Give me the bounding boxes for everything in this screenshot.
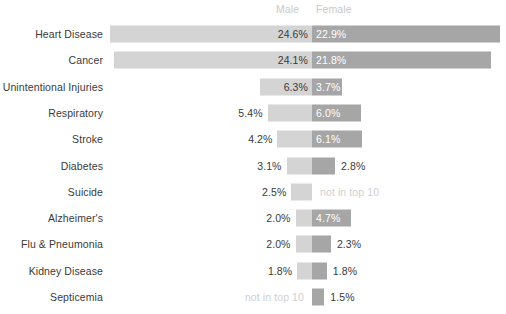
bar-value-female: 3.7% <box>316 81 340 93</box>
chart-row: Kidney Disease1.8%1.8% <box>0 259 506 283</box>
bar-female <box>312 157 335 174</box>
bar-male <box>296 210 312 227</box>
row-bar-track: 4.2%6.1% <box>0 127 506 151</box>
bar-male <box>297 262 312 279</box>
bar-value-female: 2.8% <box>341 160 365 172</box>
bar-value-female: 1.8% <box>333 265 357 277</box>
bar-value-male: 4.2% <box>248 133 272 145</box>
bar-value-female: 2.3% <box>337 238 361 250</box>
row-bar-track: 24.1%21.8% <box>0 48 506 72</box>
bar-male <box>268 104 312 121</box>
row-bar-track: not in top 101.5% <box>0 285 506 309</box>
chart-row: Flu & Pneumonia2.0%2.3% <box>0 232 506 256</box>
bar-value-male-missing: not in top 10 <box>245 291 304 303</box>
chart-row: Stroke4.2%6.1% <box>0 127 506 151</box>
chart-row: Alzheimer's2.0%4.7% <box>0 206 506 230</box>
chart-row: Suicide2.5%not in top 10 <box>0 180 506 204</box>
chart-row: Unintentional Injuries6.3%3.7% <box>0 75 506 99</box>
legend-label-female: Female <box>316 3 352 15</box>
bar-value-male: 5.4% <box>238 107 262 119</box>
bar-value-male: 2.0% <box>266 238 290 250</box>
bar-male <box>287 157 312 174</box>
chart-row: Septicemianot in top 101.5% <box>0 285 506 309</box>
chart-row: Diabetes3.1%2.8% <box>0 154 506 178</box>
row-bar-track: 24.6%22.9% <box>0 22 506 46</box>
bar-value-male: 24.6% <box>278 28 308 40</box>
row-bar-track: 2.0%4.7% <box>0 206 506 230</box>
bar-value-male: 2.5% <box>262 186 286 198</box>
row-bar-track: 6.3%3.7% <box>0 75 506 99</box>
bar-value-female: 22.9% <box>316 28 346 40</box>
bar-value-male: 1.8% <box>268 265 292 277</box>
bar-value-male: 6.3% <box>284 81 308 93</box>
row-bar-track: 5.4%6.0% <box>0 101 506 125</box>
row-bar-track: 1.8%1.8% <box>0 259 506 283</box>
bar-female <box>312 236 331 253</box>
bar-value-female: 6.0% <box>316 107 340 119</box>
bar-value-female-missing: not in top 10 <box>320 186 379 198</box>
chart-legend: Male Female <box>0 3 506 19</box>
row-bar-track: 2.0%2.3% <box>0 232 506 256</box>
bar-female <box>312 289 324 306</box>
bar-value-female: 1.5% <box>330 291 354 303</box>
row-bar-track: 2.5%not in top 10 <box>0 180 506 204</box>
bar-value-female: 4.7% <box>316 212 340 224</box>
bar-value-female: 21.8% <box>316 54 346 66</box>
bar-value-male: 24.1% <box>278 54 308 66</box>
chart-row: Respiratory5.4%6.0% <box>0 101 506 125</box>
row-bar-track: 3.1%2.8% <box>0 154 506 178</box>
bar-value-male: 2.0% <box>266 212 290 224</box>
chart-row: Heart Disease24.6%22.9% <box>0 22 506 46</box>
bar-female <box>312 262 327 279</box>
bar-male <box>296 236 312 253</box>
bar-value-male: 3.1% <box>257 160 281 172</box>
legend-label-male: Male <box>276 3 299 15</box>
tornado-chart: Male Female Heart Disease24.6%22.9%Cance… <box>0 0 506 314</box>
chart-row: Cancer24.1%21.8% <box>0 48 506 72</box>
bar-value-female: 6.1% <box>316 133 340 145</box>
bar-male <box>291 183 312 200</box>
bar-male <box>277 131 312 148</box>
